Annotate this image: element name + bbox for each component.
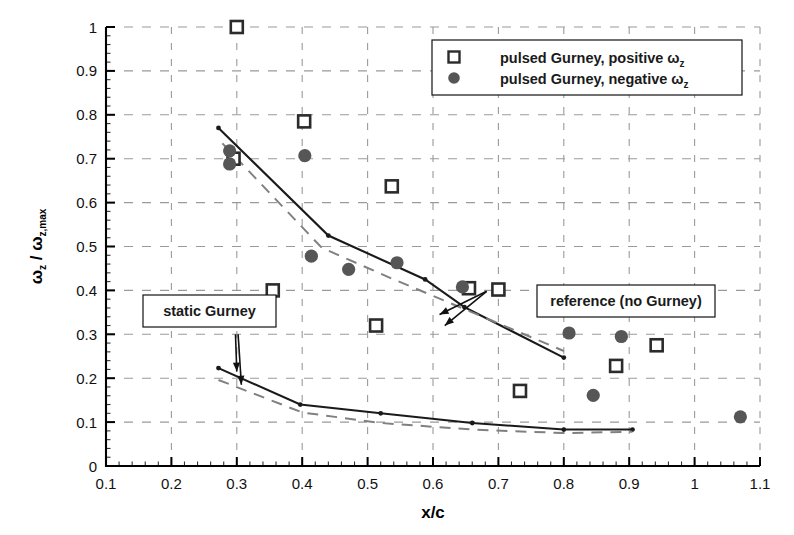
curve-vertex-marker <box>216 126 221 131</box>
y-tick-label: 0.4 <box>76 282 97 299</box>
data-point-filled-circle <box>223 144 236 157</box>
y-tick-label: 0.1 <box>76 414 97 431</box>
legend-marker-open-square <box>449 52 460 63</box>
legend-border <box>432 40 742 95</box>
data-point-open-square <box>370 320 382 332</box>
data-point-open-square <box>386 180 398 192</box>
annotation-label: reference (no Gurney) <box>550 293 702 309</box>
data-point-filled-circle <box>562 326 575 339</box>
data-point-filled-circle <box>305 250 318 263</box>
y-tick-label: 0.9 <box>76 62 97 79</box>
y-tick-label: 0.2 <box>76 370 97 387</box>
y-tick-label: 0.5 <box>76 238 97 255</box>
x-tick-label: 0.6 <box>423 475 444 492</box>
y-tick-label: 0 <box>89 458 97 475</box>
legend-box: pulsed Gurney, positive ωzpulsed Gurney,… <box>432 40 742 95</box>
x-tick-label: 0.8 <box>553 475 574 492</box>
curve-vertex-marker <box>298 402 303 407</box>
x-tick-label: 0.2 <box>161 475 182 492</box>
y-tick-label: 0.6 <box>76 194 97 211</box>
curve-vertex-marker <box>326 233 331 238</box>
data-point-filled-circle <box>734 410 747 423</box>
legend-marker-filled-circle <box>448 72 460 84</box>
chart-canvas: 0.10.20.30.40.50.60.70.80.911.100.10.20.… <box>0 0 794 535</box>
curve-vertex-marker <box>561 355 566 360</box>
data-point-filled-circle <box>342 263 355 276</box>
curve-vertex-marker <box>216 366 221 371</box>
x-tick-label: 1 <box>690 475 698 492</box>
y-tick-label: 0.7 <box>76 150 97 167</box>
x-tick-label: 0.7 <box>488 475 509 492</box>
figure-container: 0.10.20.30.40.50.60.70.80.911.100.10.20.… <box>0 0 794 535</box>
data-point-filled-circle <box>223 157 236 170</box>
data-point-filled-circle <box>587 389 600 402</box>
annotation-label: static Gurney <box>163 303 256 319</box>
annotation-reference-no-gurney: reference (no Gurney) <box>537 285 715 317</box>
y-tick-label: 0.3 <box>76 326 97 343</box>
x-tick-label: 0.1 <box>96 475 117 492</box>
data-point-filled-circle <box>298 149 311 162</box>
x-tick-label: 0.5 <box>357 475 378 492</box>
y-tick-label: 0.8 <box>76 106 97 123</box>
data-point-filled-circle <box>390 256 403 269</box>
y-tick-label: 1 <box>89 19 97 36</box>
x-tick-label: 0.4 <box>292 475 313 492</box>
x-tick-label: 0.9 <box>619 475 640 492</box>
data-point-open-square <box>492 284 504 296</box>
data-point-open-square <box>514 385 526 397</box>
x-axis-title: x/c <box>421 503 445 522</box>
curve-vertex-marker <box>561 427 566 432</box>
data-point-open-square <box>298 115 310 127</box>
x-tick-label: 1.1 <box>750 475 771 492</box>
data-point-open-square <box>610 360 622 372</box>
data-point-open-square <box>651 339 663 351</box>
curve-vertex-marker <box>378 411 383 416</box>
curve-vertex-marker <box>470 421 475 426</box>
data-point-filled-circle <box>615 330 628 343</box>
curve-vertex-marker <box>423 277 428 282</box>
annotation-static-gurney: static Gurney <box>143 295 276 327</box>
data-point-filled-circle <box>456 280 469 293</box>
data-point-open-square <box>231 21 243 33</box>
x-tick-label: 0.3 <box>226 475 247 492</box>
